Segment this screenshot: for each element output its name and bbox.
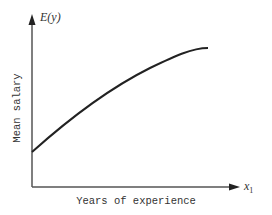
y-axis-symbol: E(y) — [39, 10, 61, 24]
mean-salary-curve — [32, 48, 208, 152]
x-axis-arrow-icon — [229, 184, 240, 191]
x-axis-symbol: x1 — [243, 179, 253, 195]
y-axis-arrow-icon — [29, 14, 36, 25]
x-axis-label: Years of experience — [76, 195, 196, 207]
y-axis-label: Mean salary — [11, 73, 23, 142]
chart-canvas: E(y) x1 Years of experience Mean salary — [0, 0, 272, 215]
